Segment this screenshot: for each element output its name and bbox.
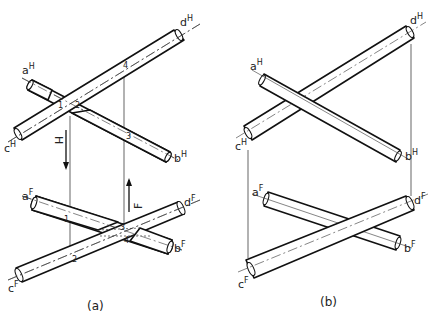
- pipe-ab-right-segment: [72, 110, 170, 162]
- arrow-label-F: F: [132, 203, 145, 209]
- point-4-F: 4: [124, 236, 129, 245]
- panel-a: aH dH cH bH 1 2 3 4 H F: [4, 14, 200, 313]
- arrow-label-H: H: [52, 136, 65, 144]
- point-3-F: 3: [120, 223, 125, 232]
- label-c-H-b: cH: [235, 138, 247, 153]
- panel-b: aH dH cH bH aF dF bF cF (b): [235, 12, 428, 309]
- label-c-H: cH: [4, 140, 16, 155]
- pipe-ab-left-segment-F: [32, 196, 118, 230]
- crossing-pipes-figure: aH dH cH bH 1 2 3 4 H F: [0, 0, 435, 319]
- point-2-H: 2: [75, 101, 80, 110]
- label-b-F: bF: [174, 240, 186, 255]
- point-1-F: 1: [64, 215, 69, 224]
- label-b-H-b: bH: [405, 148, 418, 163]
- label-a-F-b: aF: [252, 184, 264, 199]
- label-c-F-b: cF: [238, 276, 249, 291]
- label-b-H: bH: [174, 150, 187, 165]
- point-2-F: 2: [72, 255, 77, 264]
- label-b-F-b: bF: [404, 240, 416, 255]
- label-d-F: dF: [184, 194, 196, 209]
- point-3-H: 3: [126, 132, 131, 141]
- point-4-H: 4: [123, 61, 128, 70]
- label-c-F: cF: [8, 280, 19, 295]
- label-d-F-b: dF: [414, 192, 426, 207]
- pipe-ab-right-segment-F: [130, 228, 172, 254]
- label-a-H-b: aH: [250, 58, 263, 73]
- point-1-H: 1: [58, 101, 63, 110]
- label-a-H: aH: [22, 62, 35, 77]
- caption-a: (a): [87, 299, 104, 313]
- caption-b: (b): [320, 295, 337, 309]
- label-d-H: dH: [180, 14, 193, 29]
